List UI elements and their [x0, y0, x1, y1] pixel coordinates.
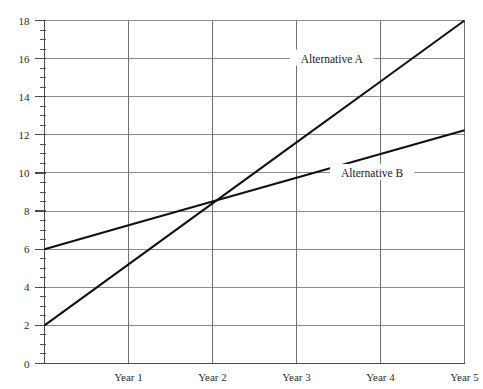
x-axis-label-year-3: Year 3 [282, 371, 311, 383]
y-axis-label-0: 0 [24, 358, 30, 370]
x-axis-tick-labels: Year 1Year 2Year 3Year 4Year 5 [114, 371, 479, 383]
y-axis-label-18: 18 [19, 15, 31, 27]
series-line-alternative-b [45, 130, 465, 249]
y-axis-label-6: 6 [24, 243, 30, 255]
y-axis-label-2: 2 [24, 319, 30, 331]
annotation-alternative-b: Alternative B [341, 167, 404, 179]
chart-canvas: 024681012141618 Year 1Year 2Year 3Year 4… [0, 0, 483, 389]
y-axis-label-16: 16 [19, 53, 31, 65]
annotation-alternative-a: Alternative A [301, 53, 364, 65]
y-axis-tick-labels: 024681012141618 [19, 15, 31, 370]
x-axis-label-year-5: Year 5 [450, 371, 479, 383]
y-axis-label-14: 14 [19, 91, 31, 103]
series-annotations: Alternative AAlternative B [290, 50, 414, 180]
line-chart: 024681012141618 Year 1Year 2Year 3Year 4… [0, 0, 483, 389]
x-axis-label-year-1: Year 1 [114, 371, 143, 383]
y-axis-label-10: 10 [19, 167, 31, 179]
y-axis-label-8: 8 [24, 205, 30, 217]
x-axis-label-year-2: Year 2 [198, 371, 227, 383]
horizontal-gridlines [45, 21, 465, 364]
y-axis-label-12: 12 [19, 129, 30, 141]
x-axis-label-year-4: Year 4 [366, 371, 395, 383]
vertical-gridlines [45, 21, 465, 364]
y-axis-label-4: 4 [24, 281, 30, 293]
